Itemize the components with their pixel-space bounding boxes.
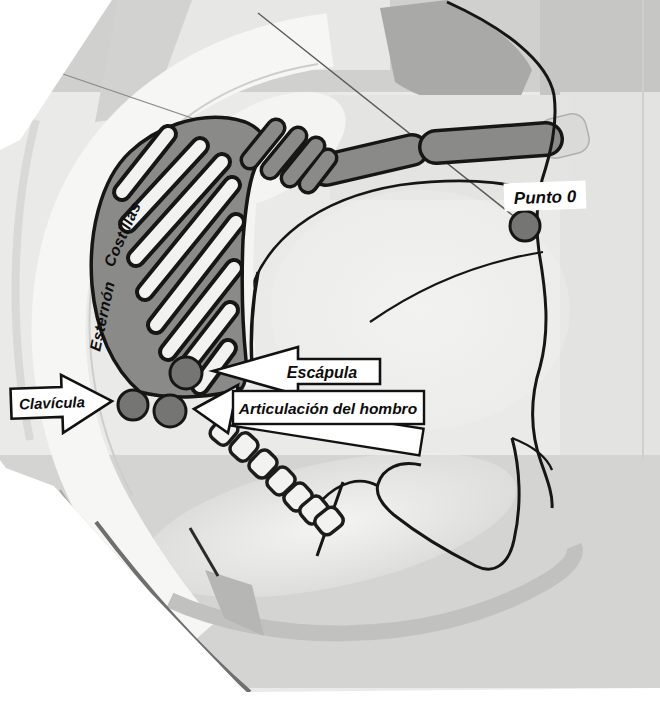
escapula-text: Escápula bbox=[287, 364, 357, 381]
point-clavicula bbox=[118, 390, 148, 420]
rib-tips bbox=[250, 128, 328, 184]
clavicula-text: Clavícula bbox=[19, 393, 85, 412]
point-escapula bbox=[170, 357, 202, 389]
ear-diagram-svg: Esternón Costillas Punto 0 bbox=[0, 0, 660, 701]
scan-piece: Esternón Costillas Punto 0 bbox=[0, 0, 660, 701]
hombro-text: Articulación del hombro bbox=[238, 400, 417, 417]
point-hombro bbox=[154, 395, 186, 427]
label-punto-0: Punto 0 bbox=[504, 181, 587, 212]
point-punto-0 bbox=[510, 211, 540, 241]
scanned-figure: Esternón Costillas Punto 0 bbox=[0, 0, 660, 701]
punto0-text: Punto 0 bbox=[514, 187, 578, 208]
